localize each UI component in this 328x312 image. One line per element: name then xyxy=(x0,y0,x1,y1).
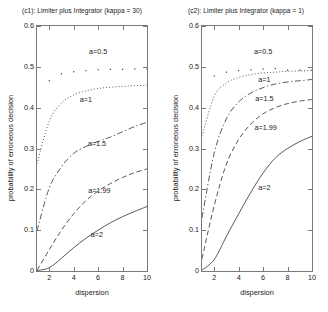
y-tick-mark xyxy=(143,149,147,150)
series-label-a=1.99: a=1.99 xyxy=(254,124,276,132)
data-marker-a=0.5 xyxy=(275,68,276,69)
x-tick-mark xyxy=(288,26,289,30)
y-tick-mark xyxy=(143,271,147,272)
y-tick-mark xyxy=(37,271,41,272)
data-marker-a=0.5 xyxy=(250,69,251,70)
x-tick-label: 10 xyxy=(308,274,316,282)
x-tick-label: 10 xyxy=(143,274,151,282)
data-marker-a=0.5 xyxy=(299,70,300,71)
x-tick-mark xyxy=(49,26,50,30)
series-label-a=1.5: a=1.5 xyxy=(255,95,273,103)
y-tick-mark xyxy=(143,108,147,109)
data-marker-a=0.5 xyxy=(110,69,111,70)
x-axis-title-c2: dispersion xyxy=(201,288,313,297)
data-curve-a=1.99 xyxy=(37,169,147,270)
plot-curves-c2 xyxy=(202,26,312,271)
y-tick-mark xyxy=(308,149,312,150)
y-tick-mark xyxy=(37,26,41,27)
x-tick-mark xyxy=(214,26,215,30)
x-tick-mark xyxy=(239,267,240,271)
x-tick-label: 4 xyxy=(237,274,241,282)
y-tick-label: 0.6 xyxy=(24,22,34,30)
x-tick-label: 4 xyxy=(72,274,76,282)
series-label-a=1: a=1 xyxy=(80,96,92,104)
data-marker-a=0.5 xyxy=(73,71,74,72)
chart-panel-c2: (c2): Limiter plus Integrator (kappa = 1… xyxy=(164,0,328,312)
y-tick-mark xyxy=(202,149,206,150)
data-marker-a=0.5 xyxy=(238,70,239,71)
x-tick-label: 8 xyxy=(286,274,290,282)
series-label-a=1.99: a=1.99 xyxy=(88,187,110,195)
y-axis-title-c1: probability of erroneous decision xyxy=(6,95,15,201)
y-tick-mark xyxy=(202,108,206,109)
y-tick-label: 0.2 xyxy=(24,185,34,193)
y-tick-label: 0.1 xyxy=(189,226,199,234)
x-tick-mark xyxy=(98,26,99,30)
x-tick-mark xyxy=(74,267,75,271)
y-tick-label: 0 xyxy=(195,267,199,275)
y-tick-mark xyxy=(202,189,206,190)
data-marker-a=0.5 xyxy=(49,80,50,81)
data-marker-a=0.5 xyxy=(311,70,312,71)
y-tick-label: 0.3 xyxy=(189,145,199,153)
panel-title-c1: (c1): Limiter plus Integrator (kappa = 3… xyxy=(0,6,164,15)
y-tick-mark xyxy=(308,189,312,190)
y-tick-mark xyxy=(143,230,147,231)
x-tick-mark xyxy=(239,26,240,30)
y-tick-mark xyxy=(37,67,41,68)
x-tick-mark xyxy=(49,267,50,271)
x-tick-label: 2 xyxy=(47,274,51,282)
x-tick-label: 6 xyxy=(261,274,265,282)
data-curve-a=1 xyxy=(37,85,147,164)
y-tick-mark xyxy=(37,189,41,190)
y-tick-mark xyxy=(37,149,41,150)
y-tick-label: 0 xyxy=(30,267,34,275)
plot-area-c1: 00.10.20.30.40.50.6246810a=0.5a=1a=1.5a=… xyxy=(36,25,148,272)
data-marker-a=0.5 xyxy=(85,70,86,71)
plot-area-c2: 00.10.20.30.40.50.6246810a=0.5a=1a=1.5a=… xyxy=(201,25,313,272)
data-marker-a=0.5 xyxy=(122,69,123,70)
y-tick-mark xyxy=(308,108,312,109)
y-tick-mark xyxy=(143,67,147,68)
x-tick-mark xyxy=(312,26,313,30)
x-tick-mark xyxy=(147,26,148,30)
data-marker-a=0.5 xyxy=(146,68,147,69)
x-axis-title-c1: dispersion xyxy=(36,288,148,297)
y-tick-label: 0.1 xyxy=(24,226,34,234)
data-marker-a=0.5 xyxy=(287,70,288,71)
y-tick-mark xyxy=(308,67,312,68)
data-marker-a=0.5 xyxy=(98,69,99,70)
data-marker-a=0.5 xyxy=(214,75,215,76)
data-curve-a=2 xyxy=(202,136,312,270)
y-tick-label: 0.4 xyxy=(189,104,199,112)
series-label-a=2: a=2 xyxy=(258,184,270,192)
y-tick-label: 0.2 xyxy=(189,185,199,193)
x-tick-mark xyxy=(147,267,148,271)
chart-panel-c1: (c1): Limiter plus Integrator (kappa = 3… xyxy=(0,0,164,312)
y-tick-label: 0.3 xyxy=(24,145,34,153)
y-tick-mark xyxy=(308,230,312,231)
y-tick-label: 0.5 xyxy=(189,63,199,71)
series-label-a=0.5: a=0.5 xyxy=(254,48,272,56)
x-tick-mark xyxy=(263,267,264,271)
series-label-a=2: a=2 xyxy=(91,231,103,239)
x-tick-mark xyxy=(312,267,313,271)
series-label-a=1.5: a=1.5 xyxy=(88,140,106,148)
y-tick-mark xyxy=(308,271,312,272)
panel-title-c2: (c2): Limiter plus Integrator (kappa = 1… xyxy=(164,6,328,15)
x-tick-mark xyxy=(123,267,124,271)
y-tick-mark xyxy=(202,271,206,272)
series-label-a=1: a=1 xyxy=(258,76,270,84)
x-tick-mark xyxy=(214,267,215,271)
y-tick-mark xyxy=(143,189,147,190)
x-tick-mark xyxy=(98,267,99,271)
x-tick-mark xyxy=(123,26,124,30)
data-marker-a=0.5 xyxy=(134,68,135,69)
y-tick-mark xyxy=(202,26,206,27)
x-tick-label: 8 xyxy=(121,274,125,282)
y-tick-label: 0.6 xyxy=(189,22,199,30)
x-tick-mark xyxy=(263,26,264,30)
data-marker-a=0.5 xyxy=(263,68,264,69)
data-marker-a=0.5 xyxy=(226,72,227,73)
y-tick-label: 0.4 xyxy=(24,104,34,112)
